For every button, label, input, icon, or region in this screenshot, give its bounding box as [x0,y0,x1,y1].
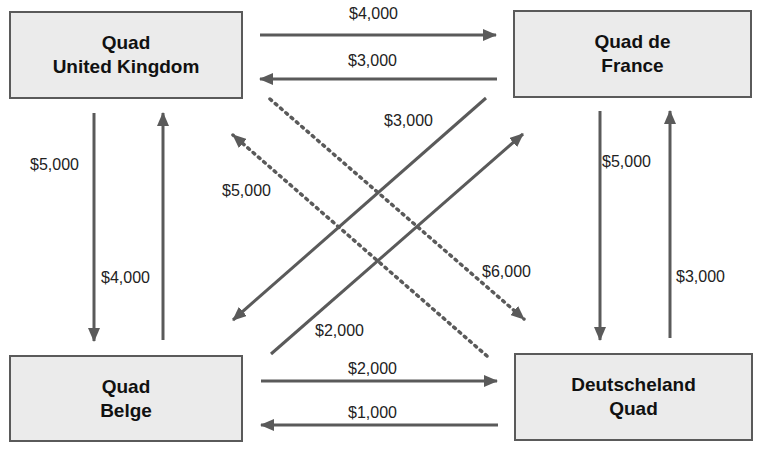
node-quad-united-kingdom: Quad United Kingdom [9,11,243,99]
label-germany-to-uk: $5,000 [222,182,271,200]
label-germany-to-belge: $1,000 [348,404,397,422]
node-quad-de-france: Quad de France [513,10,752,98]
label-france-to-belge: $3,000 [384,112,433,130]
node-title-line2: Quad [609,397,658,421]
arrow-france-to-belge [233,98,486,320]
node-title-line2: Belge [100,399,152,423]
label-belge-to-germany: $2,000 [348,360,397,378]
label-france-to-uk: $3,000 [348,52,397,70]
arrow-belge-to-france [271,134,523,354]
node-title-line1: Quad [102,31,151,55]
node-title-line2: France [601,54,663,78]
node-title-line1: Deutscheland [571,373,696,397]
label-uk-to-belge: $5,000 [30,156,79,174]
label-france-to-germany: $5,000 [602,153,651,171]
node-title-line1: Quad de [594,30,670,54]
label-uk-to-germany: $6,000 [482,263,531,281]
label-belge-to-france: $2,000 [315,322,364,340]
arrow-uk-to-germany [270,99,524,319]
label-germany-to-france: $3,000 [676,268,725,286]
node-title-line1: Quad [102,375,151,399]
label-uk-to-france: $4,000 [349,5,398,23]
node-deutscheland-quad: Deutscheland Quad [514,353,753,441]
label-belge-to-uk: $4,000 [101,269,150,287]
node-title-line2: United Kingdom [53,55,200,79]
node-quad-belge: Quad Belge [9,355,243,442]
